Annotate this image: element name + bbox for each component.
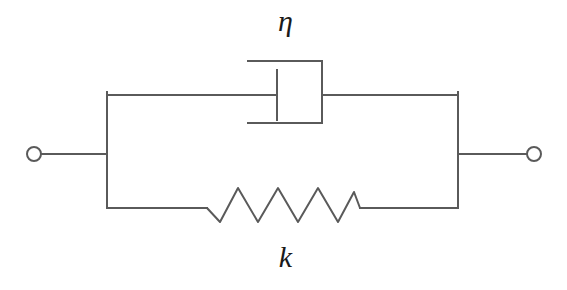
dashpot-label-text: η xyxy=(278,6,293,36)
right-terminal-node-icon xyxy=(527,147,541,161)
spring-coil-zigzag xyxy=(207,188,360,222)
kelvin-voigt-diagram: η k xyxy=(0,0,567,290)
dashpot-label: η xyxy=(0,6,567,36)
spring-label: k xyxy=(0,242,567,272)
spring-symbol xyxy=(107,188,458,222)
left-terminal-node-icon xyxy=(27,147,41,161)
dashpot-symbol xyxy=(107,61,458,123)
spring-label-text: k xyxy=(279,242,292,272)
